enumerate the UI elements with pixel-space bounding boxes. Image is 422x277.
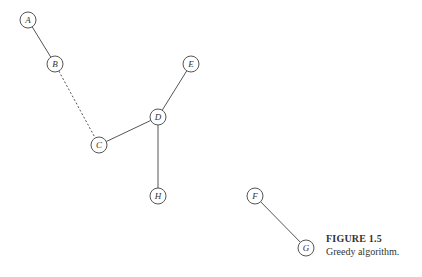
node-label: G [303,243,310,253]
node-h: H [150,188,166,204]
node-f: F [247,188,263,204]
edge-c-d [106,120,151,141]
node-a: A [20,12,36,28]
node-label: H [154,191,162,201]
node-label: B [52,59,58,69]
edge-b-c [59,71,95,138]
edge-f-g [261,202,301,243]
node-g: G [298,240,314,256]
node-b: B [47,56,63,72]
edge-d-e [162,71,187,110]
figure-description: Greedy algorithm. [326,245,399,258]
node-label: E [187,59,194,69]
node-label: D [154,112,162,122]
node-label: A [24,15,31,25]
figure-title: FIGURE 1.5 [326,232,399,245]
node-label: C [96,140,103,150]
figure-caption: FIGURE 1.5 Greedy algorithm. [326,232,399,258]
edges-group [32,27,300,242]
node-e: E [183,56,199,72]
node-label: F [251,191,258,201]
nodes-group: ABCDEHFG [20,12,314,256]
node-d: D [150,109,166,125]
node-c: C [91,137,107,153]
edge-a-b [32,27,51,57]
